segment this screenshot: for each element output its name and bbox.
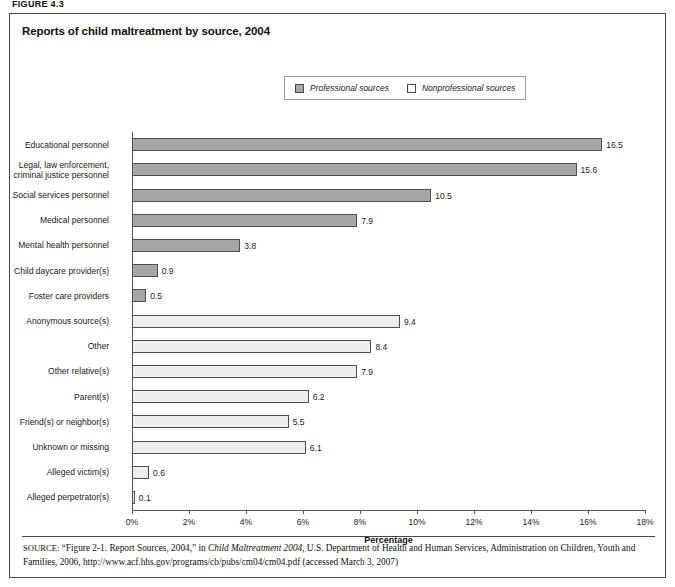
x-tick-label: 6% bbox=[297, 517, 309, 527]
x-tick-label: 8% bbox=[354, 517, 366, 527]
x-tick-mark bbox=[360, 510, 361, 514]
bar bbox=[132, 264, 158, 277]
category-label: Medical personnel bbox=[0, 215, 115, 225]
bar-value-label: 0.6 bbox=[153, 468, 165, 478]
bar bbox=[132, 365, 357, 378]
bar bbox=[132, 315, 400, 328]
bar bbox=[132, 289, 146, 302]
x-tick-label: 10% bbox=[408, 517, 425, 527]
category-label: Parent(s) bbox=[0, 392, 115, 402]
legend-label-nonprofessional: Nonprofessional sources bbox=[422, 83, 516, 93]
category-label: Social services personnel bbox=[0, 190, 115, 200]
category-label: Other relative(s) bbox=[0, 366, 115, 376]
x-tick-label: 14% bbox=[522, 517, 539, 527]
category-label-line: criminal justice personnel bbox=[0, 170, 109, 180]
x-axis-line bbox=[132, 510, 645, 511]
x-tick-label: 0% bbox=[126, 517, 138, 527]
x-tick-mark bbox=[645, 510, 646, 514]
legend-entry-professional: Professional sources bbox=[295, 83, 389, 93]
bar-value-label: 8.4 bbox=[375, 342, 387, 352]
bar bbox=[132, 415, 289, 428]
source-note-label: SOURCE: bbox=[23, 543, 59, 553]
bar-value-label: 6.1 bbox=[310, 443, 322, 453]
bar bbox=[132, 163, 577, 176]
bar bbox=[132, 239, 240, 252]
category-label: Legal, law enforcement,criminal justice … bbox=[0, 160, 115, 180]
category-label: Alleged perpetrator(s) bbox=[0, 492, 115, 502]
chart-legend: Professional sources Nonprofessional sou… bbox=[284, 76, 526, 100]
source-note: SOURCE: “Figure 2-1. Report Sources, 200… bbox=[23, 542, 657, 569]
x-tick-label: 2% bbox=[183, 517, 195, 527]
source-note-part1: “Figure 2-1. Report Sources, 2004,” in bbox=[59, 543, 208, 553]
legend-label-professional: Professional sources bbox=[310, 83, 389, 93]
category-label: Other bbox=[0, 341, 115, 351]
bar bbox=[132, 491, 135, 504]
x-tick-mark bbox=[474, 510, 475, 514]
bar-value-label: 5.5 bbox=[293, 417, 305, 427]
figure-label: FIGURE 4.3 bbox=[12, 0, 64, 9]
x-tick-label: 18% bbox=[636, 517, 653, 527]
x-tick-mark bbox=[189, 510, 190, 514]
bar bbox=[132, 441, 306, 454]
x-tick-label: 16% bbox=[579, 517, 596, 527]
bar bbox=[132, 340, 371, 353]
bar-value-label: 3.8 bbox=[244, 241, 256, 251]
bar-value-label: 9.4 bbox=[404, 317, 416, 327]
source-divider bbox=[22, 536, 655, 537]
x-tick-label: 12% bbox=[465, 517, 482, 527]
category-label: Alleged victim(s) bbox=[0, 467, 115, 477]
figure-frame: Reports of child maltreatment by source,… bbox=[9, 13, 666, 578]
source-note-title: Child Maltreatment 2004 bbox=[208, 543, 302, 553]
bar-value-label: 16.5 bbox=[606, 140, 623, 150]
bar bbox=[132, 138, 602, 151]
x-tick-mark bbox=[531, 510, 532, 514]
category-label: Foster care providers bbox=[0, 291, 115, 301]
bar-value-label: 6.2 bbox=[313, 392, 325, 402]
bar bbox=[132, 214, 357, 227]
bar-value-label: 10.5 bbox=[435, 191, 452, 201]
bar bbox=[132, 466, 149, 479]
bar-value-label: 0.1 bbox=[139, 493, 151, 503]
bar-value-label: 15.6 bbox=[581, 165, 598, 175]
professional-swatch-icon bbox=[295, 84, 304, 93]
category-label: Unknown or missing bbox=[0, 442, 115, 452]
category-label: Child daycare provider(s) bbox=[0, 266, 115, 276]
nonprofessional-swatch-icon bbox=[407, 84, 416, 93]
category-label-line: Legal, law enforcement, bbox=[0, 160, 109, 170]
bar-value-label: 0.9 bbox=[162, 266, 174, 276]
x-tick-mark bbox=[588, 510, 589, 514]
bar bbox=[132, 390, 309, 403]
x-tick-mark bbox=[303, 510, 304, 514]
category-label: Educational personnel bbox=[0, 140, 115, 150]
bar-value-label: 0.5 bbox=[150, 291, 162, 301]
x-tick-mark bbox=[132, 510, 133, 514]
bar bbox=[132, 189, 431, 202]
legend-entry-nonprofessional: Nonprofessional sources bbox=[407, 83, 516, 93]
category-label: Friend(s) or neighbor(s) bbox=[0, 417, 115, 427]
chart-title: Reports of child maltreatment by source,… bbox=[22, 25, 270, 37]
bar-value-label: 7.9 bbox=[361, 216, 373, 226]
bar-value-label: 7.9 bbox=[361, 367, 373, 377]
category-label: Mental health personnel bbox=[0, 240, 115, 250]
x-tick-mark bbox=[246, 510, 247, 514]
x-tick-mark bbox=[417, 510, 418, 514]
category-label: Anonymous source(s) bbox=[0, 316, 115, 326]
x-tick-label: 4% bbox=[240, 517, 252, 527]
